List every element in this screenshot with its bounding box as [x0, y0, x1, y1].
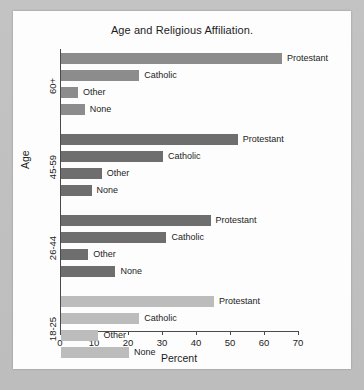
bar-value-label: Catholic	[144, 313, 177, 324]
bar	[61, 151, 163, 162]
figure-background: Age and Religious Affiliation. 010203040…	[0, 0, 364, 390]
x-tick-label: 40	[191, 337, 202, 348]
bar-value-label: Other	[107, 168, 130, 179]
bar-value-label: Protestant	[219, 296, 260, 307]
plot-area: 010203040506070 ProtestantCatholicOtherN…	[60, 49, 298, 331]
bar	[61, 249, 88, 260]
x-tick-label: 30	[157, 337, 168, 348]
bar-value-label: None	[120, 266, 142, 277]
chart-title: Age and Religious Affiliation.	[13, 24, 351, 36]
bar-value-label: Catholic	[144, 70, 177, 81]
x-tick-mark	[230, 331, 231, 335]
y-axis-category-label: 45-59	[47, 140, 58, 194]
y-axis-category-label: 18-25	[47, 302, 58, 356]
bar	[61, 313, 139, 324]
bar	[61, 185, 92, 196]
x-tick-mark	[264, 331, 265, 335]
bar	[61, 70, 139, 81]
y-axis-category-label: 60+	[47, 59, 58, 113]
bar-value-label: Other	[83, 87, 106, 98]
x-tick-label: 50	[225, 337, 236, 348]
bar-value-label: Protestant	[216, 215, 257, 226]
bar	[61, 53, 282, 64]
bar-value-label: Catholic	[171, 232, 204, 243]
x-tick-mark	[162, 331, 163, 335]
chart-card: Age and Religious Affiliation. 010203040…	[13, 11, 351, 369]
bar-value-label: Other	[93, 249, 116, 260]
bar	[61, 168, 102, 179]
y-axis-category-label: 26-44	[47, 221, 58, 275]
bar	[61, 296, 214, 307]
bar	[61, 87, 78, 98]
bar	[61, 134, 238, 145]
x-tick-mark	[196, 331, 197, 335]
x-axis-title: Percent	[60, 352, 298, 364]
x-tick-mark	[128, 331, 129, 335]
bar-value-label: Protestant	[287, 53, 328, 64]
bar-value-label: Catholic	[168, 151, 201, 162]
bar	[61, 330, 98, 341]
y-axis-title: Age	[19, 150, 31, 169]
bar-value-label: None	[97, 185, 119, 196]
bar	[61, 232, 166, 243]
x-tick-label: 70	[293, 337, 304, 348]
x-tick-mark	[298, 331, 299, 335]
bar-value-label: None	[90, 104, 112, 115]
bar	[61, 215, 211, 226]
bar	[61, 104, 85, 115]
x-tick-label: 60	[259, 337, 270, 348]
bar	[61, 266, 115, 277]
bar-value-label: Protestant	[243, 134, 284, 145]
bar-value-label: Other	[103, 330, 126, 341]
